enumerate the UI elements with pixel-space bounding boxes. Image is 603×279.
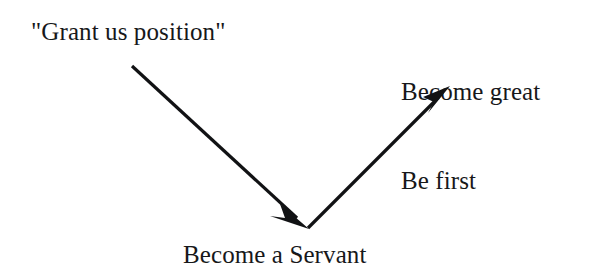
arrowhead-down-right: [270, 204, 309, 229]
diagram-canvas: "Grant us position" Become great Be firs…: [0, 0, 603, 279]
arrow-shaft-down-right: [132, 66, 297, 218]
arrow-shaft-up-right: [308, 99, 437, 228]
arrow-request-to-servant: [132, 66, 309, 229]
arrow-layer: [0, 0, 603, 279]
arrow-servant-to-greatness: [308, 86, 450, 228]
